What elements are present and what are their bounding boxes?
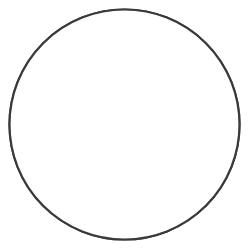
boundary-circle-outline xyxy=(10,10,240,240)
fold-diagram-svg xyxy=(0,0,250,249)
figure-root xyxy=(0,0,250,249)
